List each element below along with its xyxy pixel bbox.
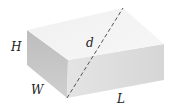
diagonal-label: d [86, 36, 94, 50]
width-label: W [31, 83, 45, 97]
length-label: L [116, 92, 125, 106]
height-label: H [10, 40, 22, 54]
box-diagram: H d W L [0, 0, 173, 111]
